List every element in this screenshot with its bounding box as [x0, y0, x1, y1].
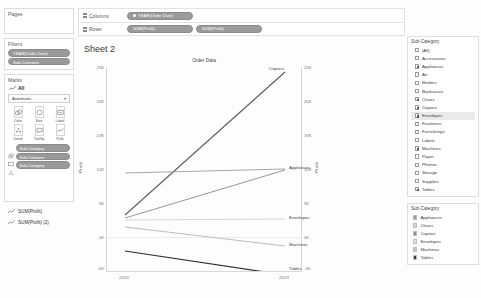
filter-option-label: Storage: [422, 170, 437, 175]
chart-canvas[interactable]: Order Data 25K 20K 15K 10K 5K 0K -5K Pro…: [84, 58, 324, 290]
filter-option-machines[interactable]: Machines: [411, 144, 475, 152]
marks-encoding-row-detail[interactable]: Sub-Category: [8, 161, 70, 169]
filter-pill-year-order-date[interactable]: YEAR(Order Date): [8, 49, 70, 57]
marks-pill-detail-sub-category[interactable]: Sub-Category: [16, 161, 71, 169]
filters-card[interactable]: Filters YEAR(Order Date) Sub-Category: [4, 38, 74, 70]
rows-shelf-label-wrap: Rows: [79, 26, 127, 32]
filter-option-paper[interactable]: Paper: [411, 152, 475, 160]
checkbox-icon[interactable]: [415, 179, 419, 183]
checkbox-icon[interactable]: [415, 81, 419, 85]
marks-measure-row-1[interactable]: SUM(Profit): [4, 206, 74, 217]
pages-card[interactable]: Pages: [4, 8, 74, 34]
marks-encoding-row-label[interactable]: Sub-Category: [8, 153, 70, 161]
rows-shelf[interactable]: Rows SUM(Profit) SUM(Profit): [78, 22, 405, 36]
checkbox-icon[interactable]: [415, 154, 419, 158]
marks-measure-label-profit-2: SUM(Profit) (2): [18, 220, 49, 225]
legend-item-label: Chairs: [420, 223, 433, 228]
sub-category-filter-card[interactable]: Sub-Category (All) Accessories Appliance…: [407, 36, 479, 197]
columns-shelf[interactable]: Columns YEAR(Order Date): [78, 8, 405, 22]
checkbox-icon[interactable]: [415, 56, 419, 60]
filter-option-chairs[interactable]: Chairs: [411, 95, 475, 103]
grip-icon: [83, 13, 87, 18]
legend-item-tables[interactable]: Tables: [411, 253, 475, 261]
filter-option-storage[interactable]: Storage: [411, 169, 475, 177]
marks-measure-row-2[interactable]: SUM(Profit) (2): [4, 217, 74, 228]
mark-type-dropdown[interactable]: Automatic ▾: [8, 94, 70, 103]
filter-option-appliances[interactable]: Appliances: [411, 62, 475, 70]
marks-pill-label-sub-category[interactable]: Sub-Category: [16, 153, 71, 161]
sub-category-color-legend[interactable]: Sub-Category Appliances Chairs Copiers E…: [407, 203, 479, 265]
right-sidebar: Sub-Category (All) Accessories Appliance…: [407, 36, 479, 271]
y-axis-left-title: Profit: [78, 162, 83, 172]
filter-option-envelopes[interactable]: Envelopes: [411, 112, 475, 120]
filter-option-label: Machines: [422, 146, 441, 151]
chevron-down-icon: ▾: [64, 96, 66, 101]
legend-item-copiers[interactable]: Copiers: [411, 229, 475, 237]
rows-pill-label-1: SUM(Profit): [133, 25, 155, 33]
marks-all-label: All: [18, 85, 24, 91]
x-axis: 2020 2023: [106, 271, 302, 285]
filter-option-furnishings[interactable]: Furnishings: [411, 128, 475, 136]
checkbox-icon[interactable]: [415, 64, 419, 68]
y-tick-left-2: 15K: [97, 133, 104, 138]
filter-option-tables[interactable]: Tables: [411, 185, 475, 193]
columns-pill-year-order-date[interactable]: YEAR(Order Date): [127, 12, 193, 20]
filter-option-label: Supplies: [422, 179, 439, 184]
marks-button-path[interactable]: Path: [50, 124, 70, 141]
filter-option-label: Paper: [422, 154, 434, 159]
legend-item-chairs[interactable]: Chairs: [411, 221, 475, 229]
checkbox-icon[interactable]: [415, 113, 419, 117]
filter-option-bookcases[interactable]: Bookcases: [411, 87, 475, 95]
filter-option-art[interactable]: Art: [411, 71, 475, 79]
legend-item-machines[interactable]: Machines: [411, 245, 475, 253]
checkbox-icon[interactable]: [415, 138, 419, 142]
rows-pill-sum-profit-2[interactable]: SUM(Profit): [196, 25, 262, 33]
checkbox-icon[interactable]: [415, 171, 419, 175]
filter-option-phones[interactable]: Phones: [411, 161, 475, 169]
color-swatch-icon: [413, 231, 417, 235]
checkbox-icon[interactable]: [415, 163, 419, 167]
filter-option-all[interactable]: (All): [411, 46, 475, 54]
y-tick-left-6: -5K: [97, 266, 104, 271]
checkbox-icon[interactable]: [415, 187, 419, 191]
legend-item-appliances[interactable]: Appliances: [411, 213, 475, 221]
rows-pill-sum-profit-1[interactable]: SUM(Profit): [127, 25, 193, 33]
line-chart-icon: [8, 209, 15, 214]
marks-button-size[interactable]: Size: [29, 106, 49, 123]
checkbox-icon[interactable]: [415, 97, 419, 101]
marks-button-label[interactable]: Label: [50, 106, 70, 123]
y-tick-right-4: 5K: [304, 201, 309, 206]
marks-button-color[interactable]: Color: [8, 106, 28, 123]
y-axis-left: 25K 20K 15K 10K 5K 0K -5K Profit: [84, 67, 106, 271]
checkbox-icon[interactable]: [415, 122, 419, 126]
grip-icon: [83, 27, 87, 32]
checkbox-icon[interactable]: [415, 146, 419, 150]
plot-area[interactable]: Copiers Appliances Envelopes Machines Ta…: [106, 67, 302, 271]
y-tick-left-0: 25K: [97, 65, 104, 70]
marks-card-title: Marks: [5, 75, 73, 84]
checkbox-icon[interactable]: [415, 48, 419, 52]
filter-option-copiers[interactable]: Copiers: [411, 103, 475, 111]
legend-item-envelopes[interactable]: Envelopes: [411, 237, 475, 245]
y-tick-right-3: 10K: [304, 167, 311, 172]
checkbox-icon[interactable]: [415, 105, 419, 109]
marks-encoding-row-color[interactable]: Sub-Category: [8, 144, 70, 152]
marks-pill-color-sub-category[interactable]: Sub-Category: [16, 144, 71, 152]
filter-option-labels[interactable]: Labels: [411, 136, 475, 144]
checkbox-icon[interactable]: [415, 72, 419, 76]
filter-option-accessories[interactable]: Accessories: [411, 54, 475, 62]
checkbox-icon[interactable]: [415, 130, 419, 134]
filter-pill-sub-category[interactable]: Sub-Category: [8, 58, 70, 66]
marks-button-size-label: Size: [36, 119, 43, 123]
chart-column-header: Order Data: [84, 58, 324, 63]
y-tick-right-6: -5K: [304, 266, 311, 271]
color-legend-title: Sub-Category: [411, 206, 475, 211]
filter-option-supplies[interactable]: Supplies: [411, 177, 475, 185]
filter-option-fasteners[interactable]: Fasteners: [411, 120, 475, 128]
filter-option-binders[interactable]: Binders: [411, 79, 475, 87]
marks-all-row[interactable]: All: [5, 84, 73, 92]
columns-shelf-pills: YEAR(Order Date): [127, 12, 193, 20]
checkbox-icon[interactable]: [415, 89, 419, 93]
marks-button-tooltip[interactable]: Tooltip: [29, 124, 49, 141]
marks-button-detail[interactable]: Detail: [8, 124, 28, 141]
